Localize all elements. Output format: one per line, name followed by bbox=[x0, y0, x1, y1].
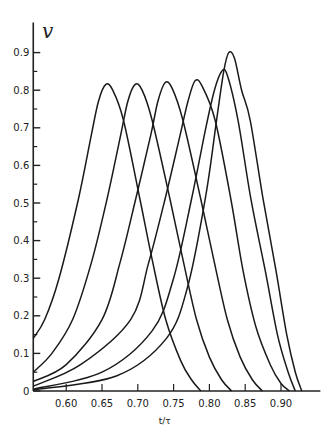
x-axis-label: t/τ bbox=[159, 416, 171, 426]
y-ticks: 00.10.20.30.40.50.60.70.80.9 bbox=[13, 47, 40, 396]
y-tick-label: 0.5 bbox=[13, 198, 29, 209]
y-tick-label: 0 bbox=[23, 386, 29, 397]
y-axis-label: v bbox=[42, 19, 54, 43]
y-tick-label: 0.7 bbox=[13, 122, 29, 133]
x-tick-label: 0.90 bbox=[270, 398, 292, 409]
y-tick-label: 0.9 bbox=[13, 47, 29, 58]
y-tick-label: 0.6 bbox=[13, 160, 29, 171]
series-line-curve-2 bbox=[33, 84, 231, 391]
x-tick-label: 0.85 bbox=[234, 398, 256, 409]
x-tick-label: 0.65 bbox=[91, 398, 113, 409]
x-ticks: 0.600.650.700.750.800.850.90 bbox=[55, 384, 292, 409]
curves bbox=[33, 52, 302, 391]
y-tick-label: 0.1 bbox=[13, 348, 29, 359]
x-tick-label: 0.80 bbox=[198, 398, 220, 409]
x-tick-label: 0.70 bbox=[127, 398, 149, 409]
y-tick-label: 0.2 bbox=[13, 310, 29, 321]
y-tick-label: 0.4 bbox=[13, 235, 29, 246]
series-line-curve-5 bbox=[33, 69, 295, 391]
y-tick-label: 0.8 bbox=[13, 85, 29, 96]
chart: 00.10.20.30.40.50.60.70.80.9 0.600.650.7… bbox=[0, 0, 332, 434]
x-tick-label: 0.60 bbox=[55, 398, 77, 409]
x-tick-label: 0.75 bbox=[162, 398, 184, 409]
y-tick-label: 0.3 bbox=[13, 273, 29, 284]
